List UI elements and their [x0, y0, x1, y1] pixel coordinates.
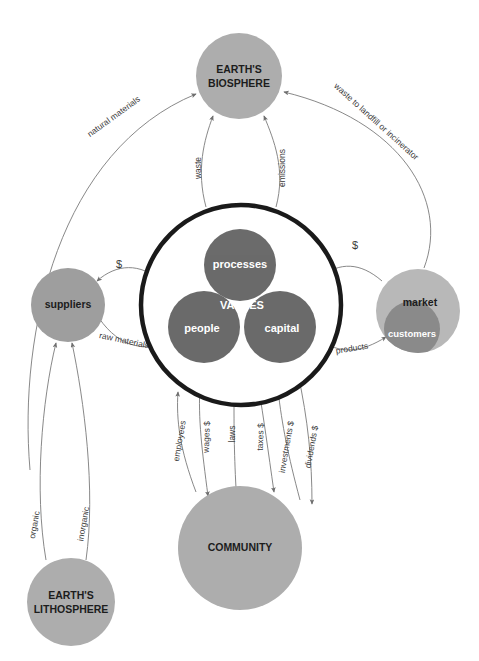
edge-label-natural-materials: natural materials [85, 94, 142, 139]
node-biosphere[interactable]: EARTH'S BIOSPHERE [196, 33, 282, 119]
market-label: market [403, 296, 438, 308]
node-lithosphere[interactable]: EARTH'S LITHOSPHERE [27, 558, 115, 646]
node-community[interactable]: COMMUNITY [178, 486, 302, 610]
edge-label-raw-materials: raw materials [98, 330, 150, 350]
edge-label-organic: organic [27, 510, 42, 540]
firm-group[interactable]: processes people capital VALUES [141, 205, 341, 405]
edge-label-employees: employees [171, 420, 188, 462]
node-suppliers[interactable]: suppliers [31, 268, 105, 342]
capital-label: capital [265, 322, 300, 334]
processes-label: processes [213, 258, 267, 270]
values-label: VALUES [220, 299, 264, 311]
edge-label-dividends: dividends $ [303, 425, 320, 469]
sustainability-flow-diagram: natural materials waste to landfill or i… [0, 0, 479, 661]
edge-label-dollars-market: $ [352, 239, 358, 251]
edge-label-investments: investments $ [277, 420, 296, 474]
edge-label-products: products [335, 341, 369, 356]
edge-label-waste-to-landfill: waste to landfill or incinerator [332, 80, 421, 162]
customers-label: customers [388, 328, 436, 339]
suppliers-label: suppliers [45, 298, 92, 310]
biosphere-label-line2: BIOSPHERE [208, 77, 270, 89]
biosphere-label-line1: EARTH'S [216, 63, 262, 75]
edge-organic-line [40, 343, 56, 560]
people-label: people [184, 322, 219, 334]
edge-label-dollars-suppliers: $ [116, 258, 122, 270]
lithosphere-label-line2: LITHOSPHERE [34, 603, 109, 615]
edge-label-waste: waste [193, 157, 203, 180]
node-market[interactable]: market customers [376, 269, 460, 357]
edge-label-wages: wages $ [201, 421, 212, 454]
edge-label-emissions: emissions [277, 149, 287, 187]
edge-label-taxes: taxes $ [255, 423, 266, 451]
community-label: COMMUNITY [208, 541, 273, 553]
edge-label-laws: laws [227, 425, 237, 442]
lithosphere-label-line1: EARTH'S [48, 589, 94, 601]
